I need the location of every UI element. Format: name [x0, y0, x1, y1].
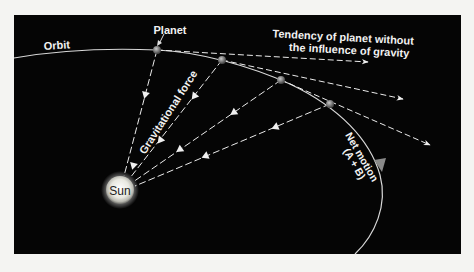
orbit-path	[14, 49, 382, 254]
arrow-icon	[140, 91, 150, 100]
arrow-icon	[128, 162, 138, 171]
arrow-icon	[270, 122, 280, 132]
tendency-lines	[157, 50, 430, 145]
arrow-icon	[228, 108, 238, 119]
tendency-line-2	[222, 60, 403, 99]
planet-label: Planet	[153, 24, 186, 36]
gravity-line-2	[130, 60, 222, 178]
arrow-icon	[174, 145, 184, 156]
planet-1	[153, 46, 161, 54]
gravity-lines	[124, 50, 330, 186]
planet-3	[277, 76, 285, 84]
planet-4	[326, 100, 334, 108]
arrow-icon	[157, 40, 162, 46]
sun-label: Sun	[109, 184, 130, 198]
arrow-icon	[200, 151, 210, 161]
planet-2	[218, 56, 226, 64]
orbit-diagram: Sun Orbit Planet Tendency of planet with…	[0, 0, 474, 272]
gravity-line-1	[124, 50, 157, 176]
orbit-label: Orbit	[43, 38, 70, 52]
